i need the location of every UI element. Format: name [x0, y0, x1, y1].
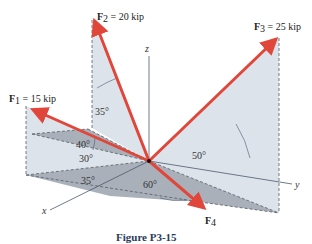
force-f3-label: F3 = 25 kip: [254, 21, 301, 34]
angle-label-35-top: 35°: [95, 106, 109, 117]
angle-label-35-bottom: 35°: [81, 175, 95, 186]
figure-caption: Figure P3-15: [116, 231, 177, 243]
angle-label-50: 50°: [192, 150, 206, 161]
force-f1-label: F1 = 15 kip: [9, 93, 56, 106]
origin-point: [147, 159, 151, 163]
x-axis-label: x: [41, 205, 47, 216]
z-axis-label: z: [144, 43, 149, 54]
force-diagram: z y x F2 = 20 kip F1 = 15 kip F3 = 25 ki…: [0, 0, 312, 244]
y-axis-label: y: [294, 179, 300, 190]
angle-label-40: 40°: [76, 139, 90, 150]
force-f4-label: F4: [205, 215, 216, 228]
angle-label-30: 30°: [79, 153, 93, 164]
angle-label-60: 60°: [143, 179, 157, 190]
force-f2-label: F2 = 20 kip: [97, 11, 144, 24]
